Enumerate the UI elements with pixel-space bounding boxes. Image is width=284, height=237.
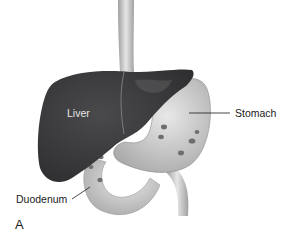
duodenum-label: Duodenum [16, 193, 67, 205]
jejunum [166, 165, 188, 216]
stomach-label: Stomach [235, 107, 276, 119]
esophagus [118, 0, 134, 72]
panel-label: A [15, 217, 24, 232]
liver-label: Liver [67, 107, 90, 119]
